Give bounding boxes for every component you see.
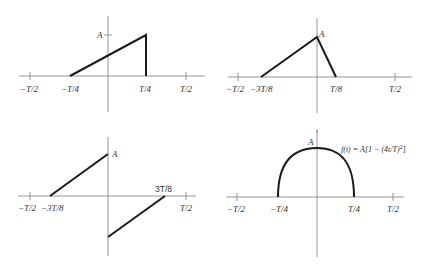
panel-parabolic-pulse: A f(t) = A[1 − (4t/T)2] −T/2 −T/4 T/4 T/… <box>226 130 406 257</box>
tick-label: T/2 <box>180 84 193 94</box>
tick-label: −T/2 <box>226 84 245 94</box>
tick-label: T/8 <box>330 84 343 94</box>
tick-label: −3T/8 <box>41 203 64 213</box>
tick-label: T/4 <box>348 204 361 214</box>
tick-label: −3T/8 <box>250 84 273 94</box>
tick-label: −T/2 <box>20 84 39 94</box>
tick-label: −T/4 <box>270 204 289 214</box>
amplitude-label: A <box>96 30 103 40</box>
tick-label: T/2 <box>387 204 400 214</box>
formula-label: f(t) = A[1 − (4t/T)2] <box>341 144 406 154</box>
tick-label: −T/2 <box>227 204 246 214</box>
waveform-curve <box>278 148 354 197</box>
waveform-curve-negative <box>108 196 165 237</box>
panel-ramp-truncated: A −T/2 −T/4 T/4 T/2 <box>19 16 205 112</box>
panel-split-ramps: A −T/2 −3T/8 3T/8 T/2 <box>18 137 196 256</box>
tick-label: −T/2 <box>18 203 37 213</box>
amplitude-label: A <box>318 29 325 39</box>
amplitude-label: A <box>307 137 314 147</box>
tick-label: T/2 <box>389 84 402 94</box>
waveform-curve-positive <box>50 154 108 196</box>
tick-label: 3T/8 <box>155 184 172 194</box>
waveform-diagram: A −T/2 −T/4 T/4 T/2 A −T/2 −3T/8 T/8 T/2… <box>0 0 425 271</box>
tick-label: T/2 <box>180 203 193 213</box>
panel-asymmetric-triangle: A −T/2 −3T/8 T/8 T/2 <box>226 18 412 133</box>
amplitude-label: A <box>111 149 118 159</box>
tick-label: −T/4 <box>61 84 80 94</box>
waveform-curve <box>261 37 336 77</box>
tick-label: T/4 <box>139 84 152 94</box>
